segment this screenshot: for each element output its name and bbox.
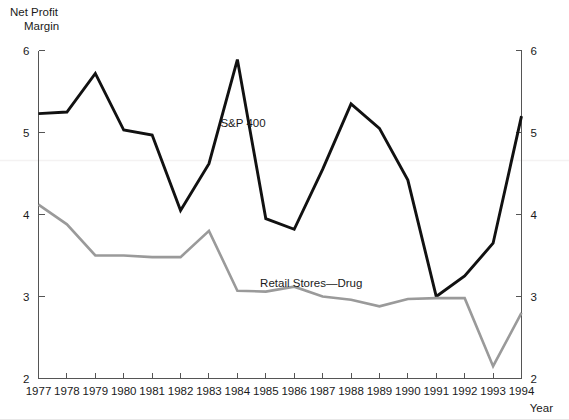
x-axis-tick-label: 1979: [83, 385, 109, 397]
x-axis-tick-label: 1992: [452, 385, 478, 397]
y-axis-right-tick-label: 5: [531, 127, 537, 139]
x-axis-tick-label: 1988: [338, 385, 364, 397]
axes-group: [39, 51, 522, 379]
net-profit-margin-chart: Net Profit Margin Year 65432 65432 19771…: [0, 0, 569, 420]
y-axis-right-tick-label: 6: [531, 45, 537, 57]
y-axis-right-tick-label: 4: [531, 209, 538, 221]
x-axis-ticks: 1977197819791980198119821983198419851986…: [26, 373, 535, 397]
x-axis-tick-label: 1981: [139, 385, 165, 397]
x-axis-tick-label: 1991: [423, 385, 449, 397]
y-axis-left-tick-label: 5: [23, 127, 29, 139]
y-axis-title-line1: Net Profit: [10, 6, 59, 18]
y-axis-right-tick-label: 3: [531, 291, 537, 303]
x-axis-tick-label: 1994: [509, 385, 535, 397]
x-axis-tick-label: 1977: [26, 385, 52, 397]
x-axis-tick-label: 1987: [310, 385, 336, 397]
x-axis-tick-label: 1985: [253, 385, 279, 397]
y-axis-right-ticks: 65432: [516, 45, 538, 385]
x-axis-tick-label: 1982: [168, 385, 194, 397]
x-axis-tick-label: 1980: [111, 385, 137, 397]
x-axis-tick-label: 1978: [54, 385, 80, 397]
y-axis-left-ticks: 65432: [23, 45, 44, 385]
x-axis-tick-label: 1983: [196, 385, 222, 397]
y-axis-left-tick-label: 3: [23, 291, 29, 303]
series-group: [39, 60, 522, 367]
x-axis-tick-label: 1986: [281, 385, 307, 397]
series-label: Retail Stores—Drug: [260, 277, 362, 289]
y-axis-left-tick-label: 6: [23, 45, 29, 57]
series-annotation-labels: S&P 400Retail Stores—Drug: [220, 117, 362, 289]
y-axis-left-tick-label: 4: [23, 209, 30, 221]
x-axis-tick-label: 1989: [367, 385, 393, 397]
series-line-s-p-400: [39, 60, 522, 297]
y-axis-left-tick-label: 2: [23, 373, 29, 385]
chart-canvas: Net Profit Margin Year 65432 65432 19771…: [0, 0, 569, 420]
x-axis-tick-label: 1993: [480, 385, 506, 397]
series-label: S&P 400: [220, 117, 265, 129]
y-axis-title-line2: Margin: [24, 20, 59, 32]
y-axis-right-tick-label: 2: [531, 373, 537, 385]
x-axis-tick-label: 1990: [395, 385, 421, 397]
x-axis-title: Year: [530, 402, 553, 414]
x-axis-tick-label: 1984: [225, 385, 251, 397]
